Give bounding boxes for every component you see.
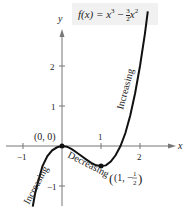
function-plot: x y −1 1 2 2 1 −1 (0, 0) ( (1, − 1 2 ) I… bbox=[0, 0, 186, 208]
annotation-decreasing: Decreasing bbox=[66, 149, 111, 179]
point-origin bbox=[60, 144, 65, 149]
x-tick-label: −1 bbox=[17, 152, 27, 162]
svg-text:(: ( bbox=[109, 171, 113, 186]
local-min-label: ( (1, − 1 2 ) bbox=[109, 170, 142, 187]
svg-text:2: 2 bbox=[133, 179, 137, 187]
x-tick-label: 1 bbox=[98, 132, 103, 142]
y-tick-label: 1 bbox=[51, 102, 56, 112]
x-axis-label: x bbox=[177, 140, 183, 151]
y-axis-label: y bbox=[57, 13, 63, 24]
x-tick-label: 2 bbox=[137, 152, 142, 162]
svg-text:): ) bbox=[138, 171, 142, 186]
y-tick-label: 2 bbox=[50, 62, 55, 72]
svg-text:(1, −: (1, − bbox=[114, 172, 133, 184]
y-axis-arrow-icon bbox=[60, 29, 65, 37]
y-tick-label: −1 bbox=[47, 182, 57, 192]
annotation-increasing-left: Increasing bbox=[21, 164, 50, 206]
origin-label: (0, 0) bbox=[34, 131, 56, 143]
svg-text:1: 1 bbox=[133, 170, 137, 178]
x-axis-arrow-icon bbox=[168, 144, 176, 149]
